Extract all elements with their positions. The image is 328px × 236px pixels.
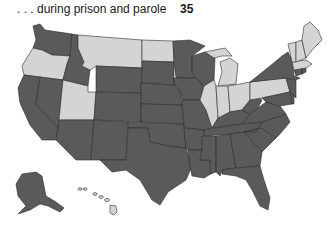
state-me (302, 22, 322, 58)
state-hi (78, 188, 117, 215)
state-mt (78, 35, 142, 70)
state-wy (96, 66, 142, 93)
state-sd (141, 61, 174, 85)
state-ks (141, 104, 184, 124)
state-ut (59, 80, 96, 120)
state-ri (302, 68, 306, 74)
state-ak (16, 172, 64, 214)
state-ar (184, 128, 204, 150)
state-co (94, 92, 141, 122)
us-choropleth-map (0, 0, 328, 236)
state-mi-lower (218, 58, 238, 86)
state-nm (91, 120, 128, 160)
state-nd (142, 40, 174, 62)
state-fl (222, 166, 270, 210)
state-az (56, 120, 94, 160)
